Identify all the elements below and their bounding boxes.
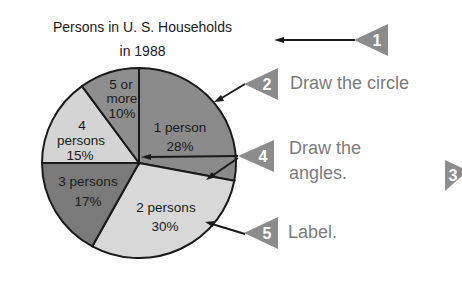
label-4-persons-num: 4 (78, 118, 86, 133)
svg-text:5: 5 (263, 225, 272, 242)
svg-text:2: 2 (263, 76, 272, 93)
label-5-or-more-pct: 10% (108, 106, 135, 121)
pie-chart-figure: 1 person 28% 2 persons 30% 3 persons 17%… (0, 0, 462, 284)
step-5-text: Label. (288, 220, 337, 245)
arrow-1 (274, 37, 355, 43)
svg-text:4: 4 (259, 148, 268, 165)
label-1-person-pct: 28% (166, 139, 193, 154)
step-badge-4: 4 (238, 140, 274, 172)
step-badge-2: 2 (244, 68, 278, 100)
svg-text:1: 1 (373, 32, 382, 49)
svg-text:3: 3 (449, 167, 458, 184)
label-2-persons: 2 persons (136, 200, 196, 215)
label-3-persons-pct: 17% (74, 194, 101, 209)
step-badge-3: 3 (445, 160, 462, 191)
step-4-text-line-2: angles. (289, 161, 347, 186)
arrow-2 (214, 84, 245, 102)
step-badge-5: 5 (244, 217, 278, 249)
label-3-persons: 3 persons (58, 174, 118, 189)
step-4-text-line-1: Draw the (289, 136, 361, 161)
label-2-persons-pct: 30% (151, 219, 178, 234)
step-2-text: Draw the circle (290, 71, 409, 96)
label-4-persons-pct: 15% (66, 148, 93, 163)
label-5-or-more-2: more (107, 91, 138, 106)
label-5-or-more: 5 or (109, 77, 133, 92)
label-1-person: 1 person (154, 120, 207, 135)
label-4-persons: persons (57, 133, 105, 148)
step-badge-1: 1 (354, 24, 388, 56)
